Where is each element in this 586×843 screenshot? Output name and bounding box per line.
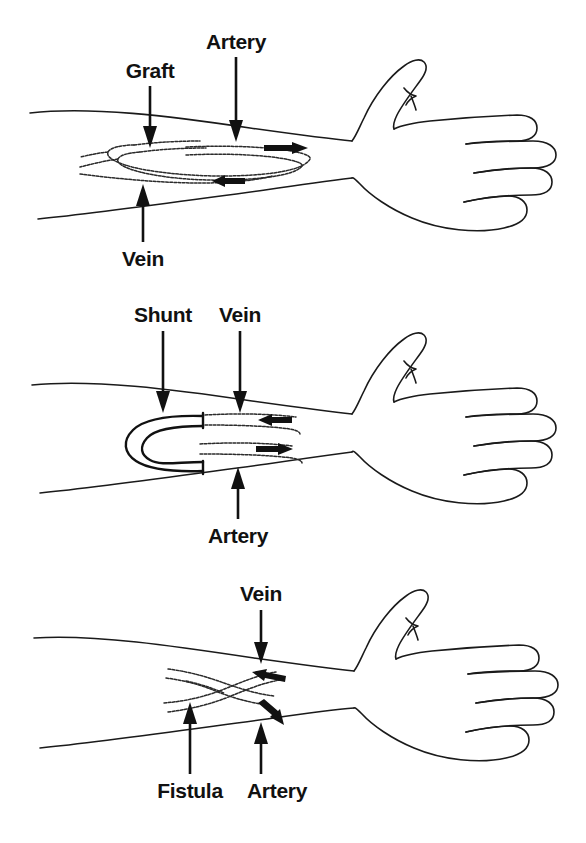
label-vein-fistula: Vein [240,582,282,605]
flow-arrow-artery-graft [264,142,308,154]
label-vein-graft: Vein [122,247,164,270]
label-fistula: Fistula [157,779,223,802]
panel-graft: Graft Artery Vein [0,0,586,281]
label-artery-fistula: Artery [247,779,308,802]
leader-fistula [183,702,197,774]
label-graft: Graft [126,59,175,82]
hand-outline-shunt [352,333,556,504]
label-shunt: Shunt [134,303,192,326]
label-artery-graft: Artery [206,30,267,53]
panel-shunt: Shunt Vein Artery [0,281,586,562]
leader-artery-fistula [254,722,268,774]
hand-outline-graft [352,60,556,231]
vascular-access-diagram: Graft Artery Vein [0,0,586,843]
label-vein-shunt: Vein [219,303,261,326]
leader-graft [143,86,157,148]
leader-vein-fistula [254,610,268,664]
shunt-tube [126,413,203,474]
flow-arrow-artery-fistula [258,699,284,725]
arm-outline-fistula [34,637,354,748]
leader-artery-graft [229,57,243,142]
flow-arrow-vein-graft [212,175,245,187]
leader-shunt [156,331,170,413]
label-artery-shunt: Artery [208,524,269,547]
flow-arrow-vein-fistula [252,669,286,682]
panel-fistula: Vein Fistula Artery [0,562,586,843]
leader-vein-graft [136,184,150,242]
leader-artery-shunt [231,467,245,519]
hand-outline-fistula [354,590,558,761]
arm-outline-shunt [32,383,352,493]
